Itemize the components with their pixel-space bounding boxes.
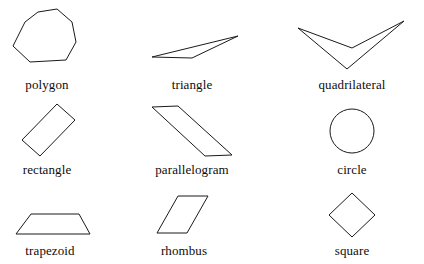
shape-parallelogram [152, 106, 232, 156]
shape-circle [330, 109, 374, 153]
geometric-shapes-figure: polygon triangle quadrilateral rectangle… [0, 0, 424, 264]
label-rectangle: rectangle [23, 163, 72, 176]
label-trapezoid: trapezoid [25, 244, 74, 257]
shape-quadrilateral [298, 21, 404, 69]
shapes-canvas [0, 0, 424, 264]
shape-square [329, 193, 375, 237]
label-circle: circle [337, 163, 366, 176]
shape-triangle [152, 36, 238, 58]
shape-polygon [13, 9, 76, 62]
label-square: square [335, 244, 370, 257]
shape-rectangle [22, 104, 75, 156]
label-polygon: polygon [25, 78, 68, 91]
label-quadrilateral: quadrilateral [319, 78, 386, 91]
label-triangle: triangle [172, 78, 213, 91]
label-rhombus: rhombus [161, 244, 207, 257]
label-parallelogram: parallelogram [155, 163, 229, 176]
shape-trapezoid [16, 214, 90, 234]
shape-rhombus [157, 196, 208, 233]
